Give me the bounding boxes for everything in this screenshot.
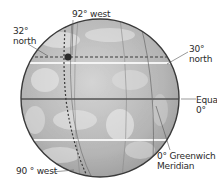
label-90-west: 90 ° west: [16, 166, 57, 176]
label-92-west: 92° west: [72, 9, 110, 19]
location-dot: [65, 54, 72, 61]
label-equator-degrees: 0°: [196, 105, 206, 115]
label-32-north-text: north: [13, 36, 36, 46]
label-greenwich: 0° Greenwich: [157, 151, 215, 161]
label-32-north-value: 32°: [13, 26, 28, 36]
label-30-north-text: north: [189, 54, 212, 64]
label-equator: Equator: [196, 95, 217, 105]
label-30-north-value: 30°: [189, 44, 204, 54]
label-greenwich-meridian: Meridian: [157, 161, 194, 171]
globe: [20, 18, 180, 178]
